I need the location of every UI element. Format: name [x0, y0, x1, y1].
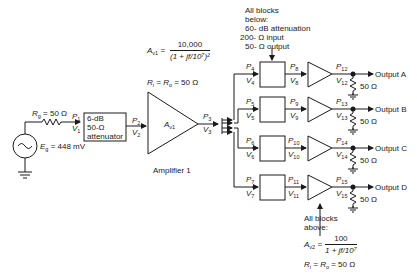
amp2-note-fraction: 100 1 + jf/10⁷: [325, 234, 357, 255]
amp1-formula-fraction: 10,000 (1 + jf/10⁷)²: [170, 40, 210, 61]
v5-label: V5: [246, 111, 254, 123]
p2-label: P2: [132, 116, 140, 128]
p7-label: P7: [246, 175, 254, 187]
v4-label: V4: [246, 76, 254, 88]
ground-icon: [18, 172, 32, 178]
amp1-gain-symbol: Av1: [164, 120, 175, 132]
p4-label: P4: [246, 62, 254, 74]
amp2-note-resistance: Ri = Ro = 50 Ω: [304, 260, 355, 272]
load-c-label: 50 Ω: [360, 156, 377, 165]
v6-label: V6: [246, 150, 254, 162]
amp2-note-gain: Av2 =: [304, 240, 322, 252]
p13-label: P13: [336, 97, 347, 109]
output-d-label: Output D: [375, 183, 407, 192]
v15-label: V15: [336, 189, 347, 201]
v12-label: V12: [336, 76, 347, 88]
output-a-label: Output A: [375, 70, 406, 79]
attenuator-line2: 50-Ω: [87, 123, 105, 132]
rg-label: Rg = 50 Ω: [32, 109, 67, 121]
load-a-label: 50 Ω: [360, 82, 377, 91]
p1-label: P1: [72, 112, 80, 124]
v8-label: V8: [290, 76, 298, 88]
p5-label: P5: [246, 97, 254, 109]
amp1-label: Amplifier 1: [153, 166, 191, 175]
p11-label: P11: [288, 175, 299, 187]
load-b-label: 50 Ω: [360, 117, 377, 126]
p8-label: P8: [290, 62, 298, 74]
p3-label: P3: [203, 112, 211, 124]
p12-label: P12: [336, 62, 347, 74]
amp1-resistance: Ri = Ro = 50 Ω: [147, 78, 198, 90]
v9-label: V9: [290, 111, 298, 123]
attenuator-line3: attenuator: [87, 132, 123, 141]
attenuator-note-line4: 200- Ω input: [240, 33, 284, 42]
v11-label: V11: [288, 189, 299, 201]
v7-label: V7: [246, 189, 254, 201]
eg-label: Eg = 448 mV: [40, 142, 85, 154]
attenuator-note-line5: 50- Ω output: [245, 42, 289, 51]
amp2-note-line2: above:: [304, 223, 328, 232]
v10-label: V10: [288, 150, 299, 162]
ac-source-icon: [13, 134, 37, 158]
amp1-formula-lhs: Av1 =: [147, 46, 165, 58]
p10-label: P10: [288, 136, 299, 148]
output-b-label: Output B: [375, 105, 407, 114]
v3-label: V3: [203, 125, 211, 137]
p6-label: P6: [246, 136, 254, 148]
v2-label: V2: [132, 128, 140, 140]
v1-label: V1: [72, 124, 80, 136]
v14-label: V14: [336, 150, 347, 162]
attenuator-note-line3: 60- dB attenuation: [245, 24, 310, 33]
p9-label: P9: [290, 97, 298, 109]
attenuator-line1: 6-dB: [87, 114, 104, 123]
amp2-note-line1: All blocks: [304, 214, 338, 223]
output-c-label: Output C: [375, 144, 407, 153]
attenuator-note-line1: All blocks: [245, 6, 279, 15]
attenuator-note-line2: below:: [245, 15, 268, 24]
v13-label: V13: [336, 111, 347, 123]
p15-label: P15: [336, 175, 347, 187]
load-d-label: 50 Ω: [360, 195, 377, 204]
p14-label: P14: [336, 136, 347, 148]
